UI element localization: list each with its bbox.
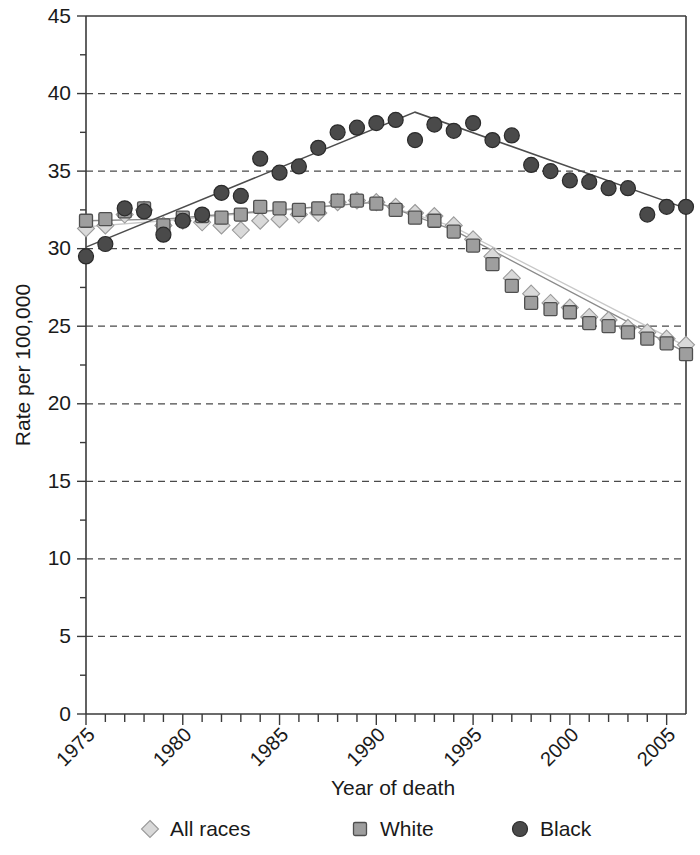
data-point-1987 xyxy=(312,202,325,215)
data-point-1992 xyxy=(408,133,423,148)
data-points-group xyxy=(78,112,695,360)
data-point-1994 xyxy=(447,225,460,238)
data-point-1983 xyxy=(234,208,247,221)
data-point-2005 xyxy=(659,199,674,214)
data-point-1982 xyxy=(214,185,229,200)
data-point-2000 xyxy=(563,306,576,319)
y-tick-label-35: 35 xyxy=(48,159,71,182)
data-point-2003 xyxy=(620,181,635,196)
data-point-1993 xyxy=(427,117,442,132)
y-tick-label-5: 5 xyxy=(59,624,71,647)
legend-label: Black xyxy=(540,817,592,840)
data-point-1978 xyxy=(137,204,152,219)
legend-label: All races xyxy=(170,817,251,840)
data-point-2006 xyxy=(679,199,694,214)
data-point-1998 xyxy=(525,296,538,309)
data-point-1982 xyxy=(215,211,228,224)
data-point-2006 xyxy=(680,348,693,361)
data-point-2001 xyxy=(582,174,597,189)
y-tick-label-15: 15 xyxy=(48,469,71,492)
data-point-2002 xyxy=(601,181,616,196)
y-tick-label-25: 25 xyxy=(48,314,71,337)
gridlines-group xyxy=(86,94,686,637)
legend-item-black[interactable]: Black xyxy=(513,817,592,840)
data-point-2003 xyxy=(621,326,634,339)
y-tick-label-10: 10 xyxy=(48,546,71,569)
legend-marker-square-icon xyxy=(354,823,367,836)
data-point-1995 xyxy=(467,239,480,252)
data-point-1999 xyxy=(543,164,558,179)
legend-marker-circle-icon xyxy=(513,822,528,837)
data-point-1998 xyxy=(524,157,539,172)
y-tick-label-0: 0 xyxy=(59,702,71,725)
data-point-1975 xyxy=(79,249,94,264)
data-point-1976 xyxy=(99,213,112,226)
data-point-1977 xyxy=(117,201,132,216)
data-point-1991 xyxy=(389,203,402,216)
legend-group: All racesWhiteBlack xyxy=(142,817,592,840)
data-point-1976 xyxy=(98,237,113,252)
data-point-1987 xyxy=(311,140,326,155)
x-axis-ticks-group: 1975198019851990199520002005 xyxy=(52,714,680,770)
x-tick-label-1975: 1975 xyxy=(52,723,99,770)
data-point-1997 xyxy=(505,279,518,292)
data-point-2002 xyxy=(602,320,615,333)
data-point-1985 xyxy=(273,202,286,215)
data-point-1984 xyxy=(254,200,267,213)
x-tick-label-1980: 1980 xyxy=(149,723,196,770)
data-point-1983 xyxy=(233,188,248,203)
data-point-1990 xyxy=(370,197,383,210)
data-point-1995 xyxy=(466,116,481,131)
data-point-1979 xyxy=(156,227,171,242)
data-point-1984 xyxy=(252,212,269,229)
data-point-1994 xyxy=(446,123,461,138)
axes-group xyxy=(86,16,686,714)
legend-item-all-races[interactable]: All races xyxy=(142,817,251,840)
y-tick-label-20: 20 xyxy=(48,391,71,414)
y-tick-label-40: 40 xyxy=(48,81,71,104)
data-point-2004 xyxy=(640,207,655,222)
x-axis-title: Year of death xyxy=(331,776,455,799)
x-tick-label-2000: 2000 xyxy=(536,723,583,770)
data-point-2000 xyxy=(562,173,577,188)
data-point-1997 xyxy=(504,128,519,143)
data-point-1996 xyxy=(485,133,500,148)
data-point-1988 xyxy=(331,194,344,207)
data-point-1991 xyxy=(388,112,403,127)
data-point-1985 xyxy=(272,165,287,180)
y-axis-title: Rate per 100,000 xyxy=(11,284,34,446)
data-point-1990 xyxy=(369,116,384,131)
y-tick-label-30: 30 xyxy=(48,236,71,259)
data-point-1975 xyxy=(80,214,93,227)
data-point-1984 xyxy=(253,151,268,166)
chart-figure: 051015202530354045 197519801985199019952… xyxy=(0,0,700,855)
y-tick-label-45: 45 xyxy=(48,4,71,27)
data-point-1989 xyxy=(350,194,363,207)
data-point-1981 xyxy=(195,207,210,222)
data-point-1986 xyxy=(291,159,306,174)
data-point-1989 xyxy=(349,120,364,135)
x-tick-label-2005: 2005 xyxy=(632,723,679,770)
data-point-1993 xyxy=(428,214,441,227)
data-point-1980 xyxy=(175,213,190,228)
legend-item-white[interactable]: White xyxy=(354,817,434,840)
data-point-1983 xyxy=(232,222,249,239)
data-point-2001 xyxy=(583,317,596,330)
data-point-1999 xyxy=(544,303,557,316)
rate-per-100000-scatter-chart: 051015202530354045 197519801985199019952… xyxy=(0,0,700,855)
x-tick-label-1990: 1990 xyxy=(342,723,389,770)
data-point-2004 xyxy=(641,332,654,345)
legend-label: White xyxy=(380,817,434,840)
y-axis-ticks-group: 051015202530354045 xyxy=(48,4,86,725)
data-point-1986 xyxy=(292,203,305,216)
data-point-1988 xyxy=(330,125,345,140)
x-tick-label-1985: 1985 xyxy=(245,723,292,770)
data-point-2005 xyxy=(660,337,673,350)
data-point-1992 xyxy=(409,211,422,224)
legend-marker-diamond-icon xyxy=(142,821,159,838)
data-point-1996 xyxy=(486,258,499,271)
x-tick-label-1995: 1995 xyxy=(439,723,486,770)
series-black xyxy=(79,112,694,263)
